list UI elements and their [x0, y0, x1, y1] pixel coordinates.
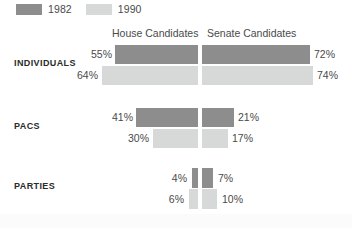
bar-line-parties-1982: 4% 7% — [0, 168, 352, 188]
bar-individuals-senate-1982 — [202, 45, 310, 64]
value-parties-house-1982: 4% — [158, 168, 187, 188]
bar-pacs-house-1982 — [136, 108, 198, 127]
bar-line-pacs-1990: 30% 17% — [0, 129, 352, 148]
bar-line-parties-1990: 6% 10% — [0, 189, 352, 209]
bar-parties-house-1990 — [189, 189, 198, 209]
chart-row-parties: PARTIES 4% 7% 6% 10% — [0, 168, 352, 212]
bar-pacs-senate-1982 — [202, 108, 234, 127]
bar-individuals-house-1990 — [102, 66, 198, 85]
page-bottom-band — [0, 214, 352, 228]
value-parties-senate-1990: 10% — [222, 189, 256, 209]
legend-item-1990: 1990 — [86, 4, 142, 15]
legend-swatch-1990 — [86, 4, 112, 15]
legend-swatch-1982 — [16, 4, 42, 15]
bar-line-individuals-1990: 64% 74% — [0, 66, 352, 85]
chart-canvas: 1982 1990 House Candidates Senate Candid… — [0, 0, 352, 228]
value-pacs-senate-1990: 17% — [232, 129, 262, 148]
bar-pacs-senate-1990 — [202, 129, 228, 148]
value-individuals-house-1990: 64% — [70, 66, 98, 85]
value-individuals-house-1982: 55% — [84, 45, 112, 64]
column-header-senate: Senate Candidates — [207, 26, 296, 40]
chart-legend: 1982 1990 — [16, 4, 142, 15]
bar-parties-senate-1982 — [202, 168, 213, 188]
value-pacs-house-1982: 41% — [105, 108, 133, 127]
value-parties-house-1990: 6% — [155, 189, 184, 209]
column-header-house: House Candidates — [112, 26, 198, 40]
value-individuals-senate-1982: 72% — [314, 45, 344, 64]
value-pacs-senate-1982: 21% — [238, 108, 268, 127]
bar-line-individuals-1982: 55% 72% — [0, 45, 352, 64]
legend-item-1982: 1982 — [16, 4, 72, 15]
value-pacs-house-1990: 30% — [121, 129, 149, 148]
legend-label-1990: 1990 — [118, 4, 142, 15]
bar-line-pacs-1982: 41% 21% — [0, 108, 352, 127]
bar-parties-senate-1990 — [202, 189, 217, 209]
legend-label-1982: 1982 — [48, 4, 72, 15]
bar-individuals-house-1982 — [115, 45, 198, 64]
chart-row-individuals: INDIVIDUALS 55% 72% 64% 74% — [0, 44, 352, 90]
bar-individuals-senate-1990 — [202, 66, 313, 85]
bar-pacs-house-1990 — [153, 129, 198, 148]
chart-row-pacs: PACS 41% 21% 30% 17% — [0, 107, 352, 153]
center-axis-gutter — [198, 40, 202, 212]
column-headers: House Candidates Senate Candidates — [0, 26, 352, 40]
value-individuals-senate-1990: 74% — [317, 66, 347, 85]
value-parties-senate-1982: 7% — [218, 168, 248, 188]
